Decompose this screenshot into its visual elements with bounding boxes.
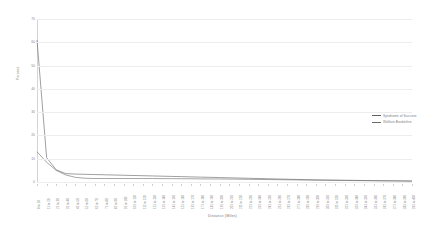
x-tick-label: 51 to 60 bbox=[86, 198, 89, 209]
x-tick-mark bbox=[402, 184, 403, 186]
x-tick-label: 131 to 140 bbox=[163, 195, 166, 209]
chart-legend: Syndrome of SuccessWelfare Borderline bbox=[372, 113, 417, 126]
x-tick-label: 61 to 70 bbox=[96, 198, 99, 209]
x-tick-label: 391 to 400 bbox=[413, 195, 416, 209]
legend-swatch bbox=[372, 115, 381, 116]
x-tick-label: 21 to 30 bbox=[57, 198, 60, 209]
series-line bbox=[37, 40, 412, 181]
y-tick-label: 50 bbox=[31, 64, 35, 68]
x-tick-label: 211 to 220 bbox=[240, 195, 243, 209]
x-tick-mark bbox=[393, 184, 394, 186]
x-tick-mark bbox=[95, 184, 96, 186]
x-tick-label: 201 to 210 bbox=[231, 195, 234, 209]
x-tick-mark bbox=[143, 184, 144, 186]
x-tick-mark bbox=[114, 184, 115, 186]
grid-line bbox=[37, 66, 412, 67]
x-tick-label: 301 to 310 bbox=[327, 195, 330, 209]
x-tick-mark bbox=[191, 184, 192, 186]
x-tick-label: 141 to 150 bbox=[173, 195, 176, 209]
x-tick-label: 111 to 120 bbox=[144, 195, 147, 209]
y-tick-label: 70 bbox=[31, 17, 35, 21]
grid-line bbox=[37, 159, 412, 160]
x-tick-mark bbox=[258, 184, 259, 186]
x-tick-label: 101 to 110 bbox=[134, 195, 137, 209]
x-tick-mark bbox=[345, 184, 346, 186]
legend-label: Syndrome of Success bbox=[383, 114, 417, 118]
y-tick-label: 60 bbox=[31, 40, 35, 44]
y-tick-label: 10 bbox=[31, 157, 35, 161]
x-tick-mark bbox=[374, 184, 375, 186]
grid-line bbox=[37, 182, 412, 183]
x-tick-mark bbox=[75, 184, 76, 186]
x-tick-mark bbox=[268, 184, 269, 186]
x-tick-mark bbox=[56, 184, 57, 186]
x-tick-label: 331 to 340 bbox=[356, 195, 359, 209]
series-lines bbox=[37, 19, 412, 182]
x-tick-mark bbox=[85, 184, 86, 186]
series-line bbox=[37, 152, 412, 181]
x-tick-mark bbox=[277, 184, 278, 186]
x-tick-mark bbox=[354, 184, 355, 186]
x-tick-label: 91 to 100 bbox=[125, 196, 128, 209]
y-axis-title: Percent bbox=[16, 20, 20, 80]
legend-item[interactable]: Syndrome of Success bbox=[372, 113, 417, 118]
x-tick-label: 171 to 180 bbox=[202, 195, 205, 209]
x-tick-label: 341 to 350 bbox=[365, 195, 368, 209]
x-tick-label: 361 to 370 bbox=[384, 195, 387, 209]
y-tick-label: 40 bbox=[31, 87, 35, 91]
x-tick-mark bbox=[249, 184, 250, 186]
x-tick-mark bbox=[172, 184, 173, 186]
x-tick-label: 81 to 90 bbox=[115, 198, 118, 209]
x-tick-label: 191 to 200 bbox=[221, 195, 224, 209]
x-tick-label: 381 to 390 bbox=[404, 195, 407, 209]
x-tick-mark bbox=[383, 184, 384, 186]
x-tick-label: 0 to 10 bbox=[38, 200, 41, 209]
x-tick-mark bbox=[306, 184, 307, 186]
x-tick-label: 261 to 270 bbox=[288, 195, 291, 209]
x-tick-mark bbox=[364, 184, 365, 186]
x-tick-mark bbox=[47, 184, 48, 186]
x-tick-label: 121 to 130 bbox=[154, 195, 157, 209]
x-tick-mark bbox=[124, 184, 125, 186]
x-tick-mark bbox=[316, 184, 317, 186]
x-tick-label: 41 to 50 bbox=[77, 198, 80, 209]
grid-line bbox=[37, 112, 412, 113]
x-tick-label: 231 to 240 bbox=[259, 195, 262, 209]
grid-line bbox=[37, 42, 412, 43]
x-tick-label: 71 to 80 bbox=[106, 198, 109, 209]
x-tick-mark bbox=[229, 184, 230, 186]
x-tick-label: 241 to 250 bbox=[269, 195, 272, 209]
x-tick-mark bbox=[335, 184, 336, 186]
plot-area: 010203040506070 bbox=[37, 19, 412, 182]
x-tick-mark bbox=[287, 184, 288, 186]
x-tick-mark bbox=[66, 184, 67, 186]
legend-swatch bbox=[372, 122, 381, 123]
x-tick-mark bbox=[37, 184, 38, 186]
x-tick-mark bbox=[325, 184, 326, 186]
x-tick-mark bbox=[412, 184, 413, 186]
grid-line bbox=[37, 89, 412, 90]
x-tick-mark bbox=[297, 184, 298, 186]
x-tick-label: 151 to 160 bbox=[182, 195, 185, 209]
x-tick-label: 181 to 190 bbox=[211, 195, 214, 209]
x-tick-label: 291 to 300 bbox=[317, 195, 320, 209]
y-tick-label: 0 bbox=[33, 180, 35, 184]
x-tick-label: 351 to 360 bbox=[375, 195, 378, 209]
legend-item[interactable]: Welfare Borderline bbox=[372, 120, 417, 125]
line-chart: Percent 010203040506070 0 to 1011 to 202… bbox=[0, 0, 445, 235]
x-tick-mark bbox=[133, 184, 134, 186]
x-tick-mark bbox=[210, 184, 211, 186]
x-tick-label: 371 to 380 bbox=[394, 195, 397, 209]
x-tick-label: 11 to 20 bbox=[48, 198, 51, 209]
y-tick-label: 30 bbox=[31, 110, 35, 114]
grid-line bbox=[37, 135, 412, 136]
x-tick-mark bbox=[104, 184, 105, 186]
x-tick-label: 31 to 40 bbox=[67, 198, 70, 209]
legend-label: Welfare Borderline bbox=[383, 120, 412, 124]
x-axis-title: Distance (Miles) bbox=[0, 214, 445, 218]
x-tick-label: 321 to 330 bbox=[346, 195, 349, 209]
x-tick-label: 311 to 320 bbox=[336, 195, 339, 209]
x-tick-label: 161 to 170 bbox=[192, 195, 195, 209]
grid-line bbox=[37, 19, 412, 20]
x-tick-label: 271 to 280 bbox=[298, 195, 301, 209]
